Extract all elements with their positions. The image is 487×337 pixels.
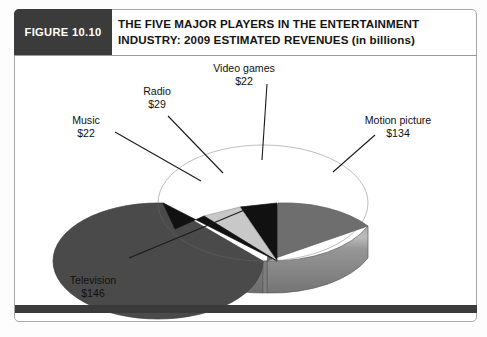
leader-line-video-games [262,84,267,160]
pie-label-television-name: Television [70,274,117,286]
leader-line-radio [168,116,223,173]
figure-header: FIGURE 10.10 THE FIVE MAJOR PLAYERS IN T… [14,9,477,56]
figure-title-line-1: THE FIVE MAJOR PLAYERS IN THE ENTERTAINM… [118,16,470,33]
pie-label-music-name: Music [72,114,100,126]
pie-label-music: Music $22 [55,114,117,139]
leader-line-music [115,132,201,181]
leader-line-motion-picture [333,135,375,172]
figure-bottom-rule [15,305,477,313]
pie-wall-separator [263,261,267,293]
pie-label-radio-name: Radio [143,85,171,97]
pie-label-motion-picture-value: $134 [352,127,444,140]
figure-title: THE FIVE MAJOR PLAYERS IN THE ENTERTAINM… [118,9,470,55]
pie-label-video-games-value: $22 [196,75,292,88]
pie-label-music-value: $22 [55,127,117,140]
figure-number-badge: FIGURE 10.10 [14,9,112,55]
pie-label-motion-picture-name: Motion picture [365,114,432,126]
figure-root: FIGURE 10.10 THE FIVE MAJOR PLAYERS IN T… [0,0,487,337]
pie-label-radio-value: $29 [127,98,187,111]
figure-title-line-2: INDUSTRY: 2009 ESTIMATED REVENUES (in bi… [118,32,470,49]
pie-label-television: Television $146 [53,274,133,299]
pie-label-radio: Radio $29 [127,85,187,110]
pie-label-video-games: Video games $22 [196,62,292,87]
pie-label-television-value: $146 [53,287,133,300]
pie-label-video-games-name: Video games [213,62,275,74]
pie-label-motion-picture: Motion picture $134 [352,114,444,139]
